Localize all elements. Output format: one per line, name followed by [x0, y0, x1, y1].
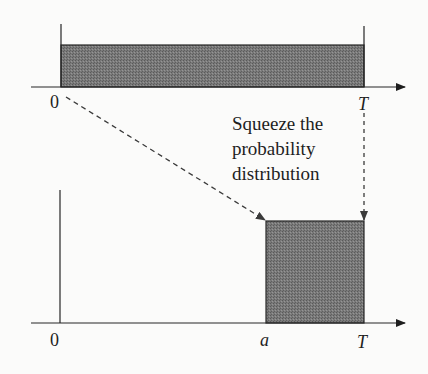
annotation-line-1: Squeeze the [232, 113, 323, 134]
annotation-line-3: distribution [232, 163, 320, 184]
top-origin-label: 0 [50, 92, 59, 112]
bottom-distribution-rect [266, 221, 364, 323]
bottom-panel: 0 a T [31, 190, 405, 352]
squeeze-annotation: Squeeze the probability distribution [232, 113, 323, 184]
bottom-origin-label: 0 [50, 330, 59, 350]
bottom-end-label: T [357, 332, 369, 352]
squeeze-distribution-diagram: 0 T Squeeze the probability distribution… [0, 0, 428, 374]
top-panel: 0 T [31, 24, 405, 114]
annotation-line-2: probability [232, 138, 316, 159]
bottom-start-label: a [260, 330, 269, 350]
top-end-label: T [358, 94, 370, 114]
diagram-svg: 0 T Squeeze the probability distribution… [0, 0, 428, 374]
top-distribution-rect [61, 45, 364, 87]
